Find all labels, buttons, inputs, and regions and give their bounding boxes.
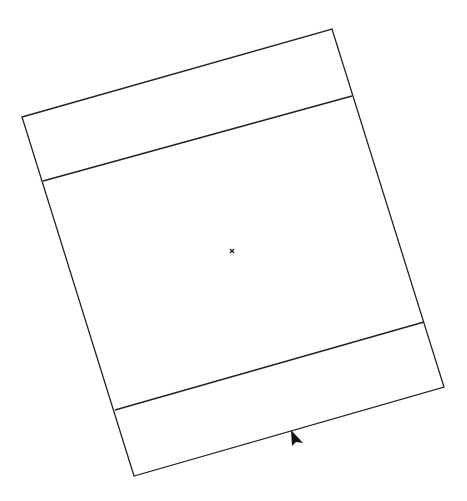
diagram-canvas xyxy=(0,0,467,501)
center-marker-icon xyxy=(230,249,234,253)
bottom-band-divider xyxy=(115,322,424,410)
cursor-arrow-icon xyxy=(291,430,303,446)
top-band-divider xyxy=(43,96,352,181)
